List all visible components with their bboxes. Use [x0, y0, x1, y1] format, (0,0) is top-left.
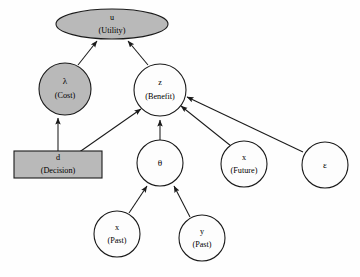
benefit-qualifier: (Benefit) [145, 92, 175, 101]
edge-xpast-to-theta [129, 186, 147, 213]
y-past-qualifier: (Past) [192, 240, 211, 249]
x-past-symbol: x [115, 223, 119, 232]
cost-symbol: λ [63, 76, 68, 86]
epsilon-symbol: ε [323, 160, 327, 170]
node-x-past[interactable]: x (Past) [94, 211, 140, 257]
utility-qualifier: (Utility) [99, 26, 126, 35]
edge-layer [58, 41, 303, 217]
x-future-circle[interactable] [221, 141, 267, 187]
theta-symbol: θ [158, 158, 163, 168]
edge-d-to-z [78, 109, 141, 153]
node-benefit[interactable]: z (Benefit) [134, 64, 186, 116]
benefit-symbol: z [158, 78, 162, 87]
x-past-circle[interactable] [94, 211, 140, 257]
node-cost[interactable]: λ (Cost) [39, 63, 91, 115]
edge-z-to-u [128, 41, 148, 65]
influence-diagram-canvas: u (Utility) λ (Cost) z (Benefit) d (Deci… [0, 0, 360, 277]
cost-qualifier: (Cost) [55, 91, 76, 100]
node-utility[interactable]: u (Utility) [56, 9, 168, 39]
benefit-circle[interactable] [134, 64, 186, 116]
diagram-svg: u (Utility) λ (Cost) z (Benefit) d (Deci… [0, 0, 360, 277]
y-past-circle[interactable] [179, 215, 225, 261]
edge-ypast-to-theta [174, 186, 190, 217]
cost-circle[interactable] [39, 63, 91, 115]
node-x-future[interactable]: x (Future) [221, 141, 267, 187]
node-epsilon[interactable]: ε [302, 142, 348, 188]
x-future-qualifier: (Future) [231, 166, 258, 175]
node-theta[interactable]: θ [137, 140, 183, 186]
x-past-qualifier: (Past) [107, 236, 126, 245]
x-future-symbol: x [242, 153, 246, 162]
decision-qualifier: (Decision) [41, 166, 76, 175]
edge-lambda-to-u [78, 41, 97, 65]
node-decision[interactable]: d (Decision) [14, 151, 102, 178]
decision-symbol: d [56, 153, 60, 162]
node-y-past[interactable]: y (Past) [179, 215, 225, 261]
utility-symbol: u [110, 13, 114, 22]
edge-xfuture-to-z [181, 106, 231, 146]
